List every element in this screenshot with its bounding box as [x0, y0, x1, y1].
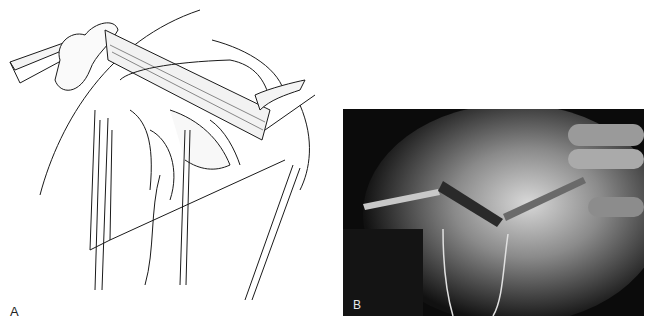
panel-b-photograph: B — [343, 109, 644, 316]
panel-a-illustration: A — [0, 0, 340, 327]
intraoperative-photo — [343, 109, 644, 316]
surgical-illustration — [0, 0, 340, 327]
panel-label-a: A — [10, 304, 19, 319]
panel-label-b: B — [353, 298, 361, 312]
